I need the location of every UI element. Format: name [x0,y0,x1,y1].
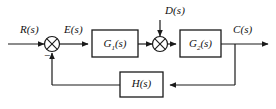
block-diagram-canvas: R(s) E(s) D(s) C(s) − G1(s) G2(s) H(s) [0,0,276,109]
label-block-g1: G1(s) [92,38,138,52]
label-block-h: H(s) [120,78,163,92]
label-block-g2: G2(s) [180,38,221,52]
label-reference-input: R(s) [20,24,39,35]
label-negative-feedback-sign: − [44,50,50,61]
label-block-h-tail: (s) [140,77,152,89]
label-error-signal: E(s) [64,24,83,35]
label-block-g2-tail: (s) [200,37,212,49]
label-block-g2-main: G [189,37,197,49]
block-diagram-graphics [0,0,276,109]
label-block-g1-tail: (s) [115,37,127,49]
label-disturbance-input: D(s) [165,5,185,16]
label-block-h-main: H [132,77,140,89]
label-output-signal: C(s) [233,24,252,35]
